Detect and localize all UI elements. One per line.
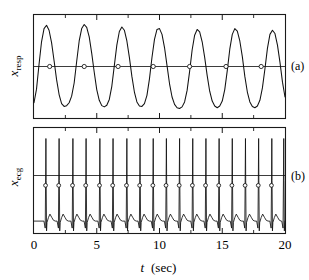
x-axis-symbol: t [140, 260, 144, 275]
ecg-rpeak-marker [44, 184, 48, 188]
panel-b-label: (b) [291, 169, 305, 183]
ecg-rpeak-marker [125, 184, 129, 188]
ecg-rpeak-marker [177, 184, 181, 188]
ecg-rpeak-marker [164, 184, 168, 188]
panel-b-ecg [34, 128, 286, 234]
x-tick-label: 5 [94, 237, 101, 252]
ecg-rpeak-marker [111, 184, 115, 188]
x-tick-label: 10 [153, 237, 166, 252]
ecg-rpeak-marker [138, 184, 142, 188]
ecg-rpeak-marker [190, 184, 194, 188]
figure-container: xresp (a) xecg (b) 05101520 t (sec) [0, 0, 309, 280]
ecg-rpeak-marker [151, 184, 155, 188]
ecg-rpeak-marker [71, 184, 75, 188]
ecg-rpeak-marker [204, 184, 208, 188]
ecg-rpeak-marker [270, 184, 274, 188]
respiration-crossing-marker [151, 64, 155, 68]
ecg-rpeak-marker [230, 184, 234, 188]
x-tick-label: 15 [216, 237, 229, 252]
respiration-crossing-marker [48, 64, 52, 68]
respiration-crossing-marker [188, 64, 192, 68]
panel-a-respiration [34, 15, 286, 119]
ecg-rpeak-marker [57, 184, 61, 188]
x-tick-label: 0 [31, 237, 38, 252]
respiration-crossing-marker [116, 64, 120, 68]
respiration-crossing-marker [82, 64, 86, 68]
two-panel-timeseries-figure: xresp (a) xecg (b) 05101520 t (sec) [0, 0, 309, 280]
x-axis-unit: (sec) [151, 260, 176, 275]
respiration-crossing-marker [224, 64, 228, 68]
respiration-crossing-marker [259, 64, 263, 68]
ecg-rpeak-marker [256, 184, 260, 188]
panel-a-label: (a) [291, 59, 304, 73]
ecg-rpeak-marker [98, 184, 102, 188]
y-label-a-subscript: resp [13, 55, 23, 70]
y-label-b-subscript: ecg [13, 167, 23, 180]
ecg-rpeak-marker [217, 184, 221, 188]
ecg-rpeak-marker [243, 184, 247, 188]
x-tick-label: 20 [279, 237, 292, 252]
ecg-rpeak-marker [84, 184, 88, 188]
